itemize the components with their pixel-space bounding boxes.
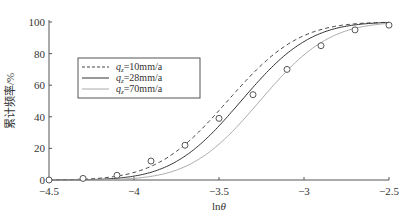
y-tick-label: 80 <box>34 48 46 60</box>
legend: qz=10mm/aqz=28mm/aqz=70mm/a <box>78 58 200 98</box>
observed-points <box>46 22 392 183</box>
x-tick-label: −3.5 <box>209 185 229 197</box>
y-tick-label: 40 <box>34 111 46 123</box>
data-point-marker <box>216 115 222 121</box>
y-tick-label: 100 <box>29 16 46 28</box>
data-point-marker <box>386 22 392 28</box>
y-tick-label: 20 <box>34 142 46 154</box>
axes: 020406080100−4.5−4−3.5−3−2.5 <box>29 16 400 197</box>
x-axis-label: lnθ <box>212 200 227 212</box>
y-axis-label: 累计频率/% <box>3 73 16 129</box>
data-point-marker <box>352 27 358 33</box>
x-tick-label: −3 <box>298 185 310 197</box>
x-tick-label: −2.5 <box>379 185 399 197</box>
series-curve-1 <box>49 22 389 180</box>
series-curve-2 <box>49 23 389 181</box>
x-tick-label: −4 <box>128 185 140 197</box>
data-point-marker <box>250 92 256 98</box>
y-tick-label: 60 <box>34 79 46 91</box>
data-point-marker <box>114 172 120 178</box>
series-curve-3 <box>49 23 389 180</box>
x-tick-label: −4.5 <box>39 185 59 197</box>
data-point-marker <box>46 177 52 183</box>
cumulative-frequency-chart: 020406080100−4.5−4−3.5−3−2.5 qz=10mm/aqz… <box>0 0 411 217</box>
data-point-marker <box>148 158 154 164</box>
data-point-marker <box>182 142 188 148</box>
data-point-marker <box>80 175 86 181</box>
data-point-marker <box>284 66 290 72</box>
curves <box>49 22 389 180</box>
data-point-marker <box>318 43 324 49</box>
